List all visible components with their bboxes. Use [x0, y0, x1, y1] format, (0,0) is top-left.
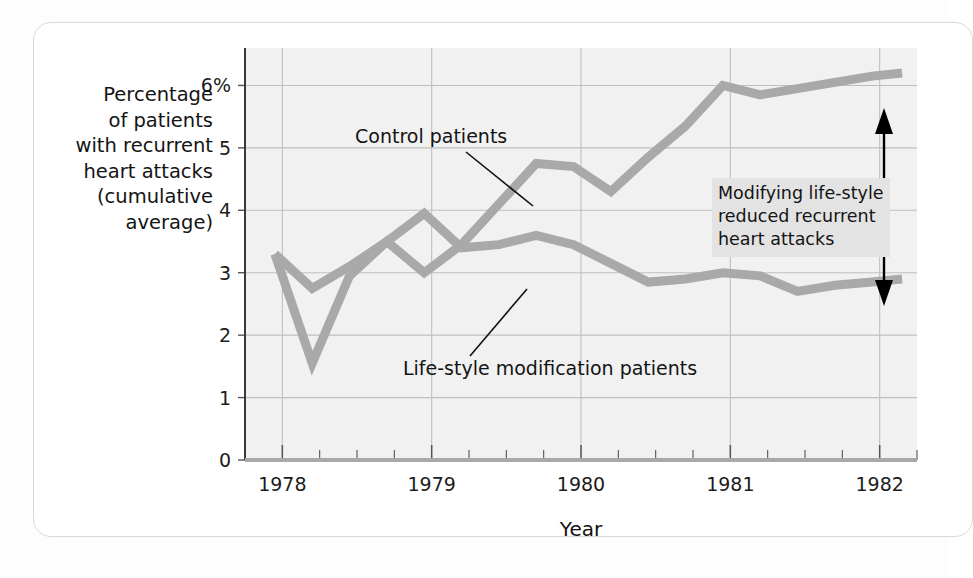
- series-label-control-patients: Control patients: [355, 125, 507, 147]
- x-tick-label: 1980: [557, 473, 605, 495]
- y-tick-label: 3: [219, 262, 231, 284]
- y-tick-label: 4: [219, 199, 231, 221]
- y-tick-label: 1: [219, 387, 231, 409]
- callout-annotation: Modifying life-style reduced recurrent h…: [712, 178, 890, 257]
- y-tick-label: 0: [219, 449, 231, 471]
- y-tick-label: 2: [219, 324, 231, 346]
- x-tick-label: 1981: [706, 473, 754, 495]
- x-tick-label: 1982: [855, 473, 903, 495]
- x-tick-label: 1978: [258, 473, 306, 495]
- x-axis-title: Year: [559, 517, 603, 541]
- series-label-lifestyle-patients: Life-style modification patients: [403, 357, 697, 379]
- x-tick-label: 1979: [407, 473, 455, 495]
- y-tick-label: 5: [219, 137, 231, 159]
- y-axis-caption: Percentage of patients with recurrent he…: [38, 82, 213, 235]
